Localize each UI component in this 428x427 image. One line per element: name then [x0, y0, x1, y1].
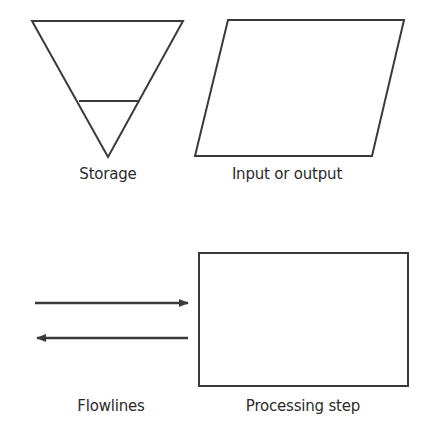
diagram-canvas: [0, 0, 428, 427]
processing-step-symbol: [199, 253, 408, 386]
processing-step-label: Processing step: [246, 397, 360, 415]
storage-symbol: [32, 21, 183, 157]
input-output-symbol: [195, 20, 404, 156]
storage-label: Storage: [79, 165, 136, 183]
input-output-label: Input or output: [232, 165, 342, 183]
flowlines-label: Flowlines: [77, 397, 144, 415]
flowlines-symbol: [35, 303, 188, 338]
